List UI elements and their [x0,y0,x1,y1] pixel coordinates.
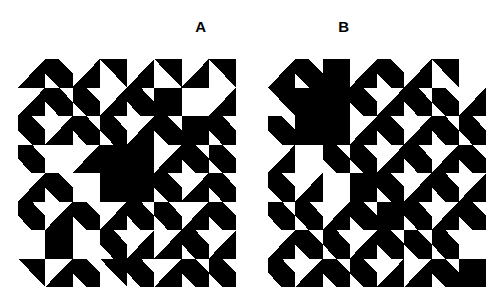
pattern-tile [323,59,350,88]
pattern-tile [45,230,72,259]
tile-shape [127,173,154,202]
pattern-tile [127,145,154,174]
tile-shape [459,259,486,288]
pattern-tile [323,116,350,145]
tile-shape [45,230,72,259]
panel-label-a: A [189,18,213,36]
tile-shape [127,145,154,174]
tile-shape [350,173,377,202]
pattern-grid [268,59,486,287]
figure-root: A B [0,0,499,301]
tile-shape [100,173,127,202]
pattern-tile [127,173,154,202]
pattern-tile [459,259,486,288]
pattern-tile [350,173,377,202]
panel-label-b: B [332,18,356,36]
pattern-panel-a [18,59,236,287]
tile-shape [295,88,322,117]
pattern-tile [323,88,350,117]
pattern-tile [154,88,181,117]
pattern-tile [182,116,209,145]
tile-shape [323,88,350,117]
pattern-tile [295,116,322,145]
pattern-tile [100,173,127,202]
tile-shape [323,116,350,145]
pattern-tile [100,145,127,174]
pattern-panel-b [268,59,486,287]
tile-shape [323,59,350,88]
pattern-tile [377,202,404,231]
tile-shape [100,145,127,174]
tile-shape [295,116,322,145]
tile-shape [182,116,209,145]
tile-shape [154,88,181,117]
pattern-tile [295,88,322,117]
pattern-grid [18,59,236,287]
tile-shape [377,202,404,231]
